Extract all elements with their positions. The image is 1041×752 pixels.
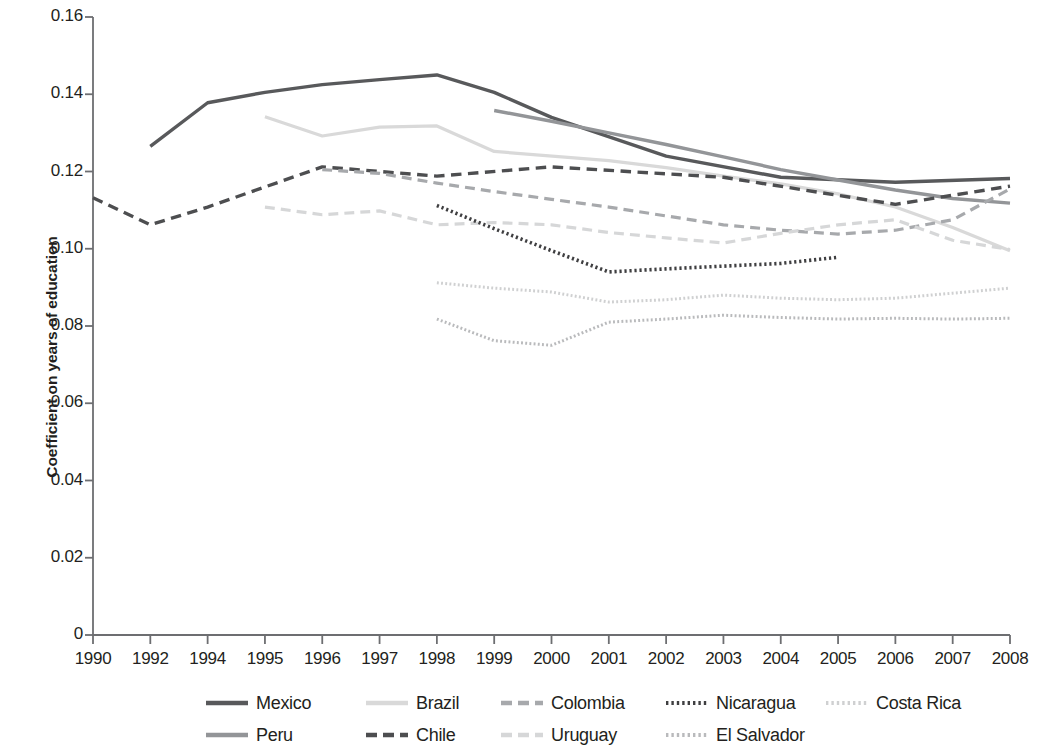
legend-swatch-icon	[825, 696, 869, 710]
legend-row-1: MexicoBrazilColombiaNicaraguaCosta Rica	[0, 688, 1041, 718]
legend-swatch-icon	[365, 696, 409, 710]
legend-swatch-icon	[665, 728, 709, 742]
y-tick-label: 0.06	[23, 392, 83, 412]
series-line-costa-rica	[437, 283, 1010, 302]
legend-item-costa-rica[interactable]: Costa Rica	[825, 688, 961, 718]
series-line-nicaragua	[437, 205, 838, 271]
legend-swatch-icon	[500, 728, 544, 742]
plot-area	[0, 0, 1041, 752]
legend-label: Colombia	[551, 693, 625, 714]
y-tick-label: 0.16	[23, 6, 83, 26]
y-tick-label: 0.08	[23, 315, 83, 335]
y-tick-label: 0.04	[23, 470, 83, 490]
legend-label: Uruguay	[551, 725, 617, 746]
legend-label: Brazil	[416, 693, 459, 714]
legend-label: Mexico	[256, 693, 311, 714]
legend-label: Nicaragua	[716, 693, 795, 714]
legend-item-chile[interactable]: Chile	[365, 720, 456, 750]
legend-item-brazil[interactable]: Brazil	[365, 688, 459, 718]
legend-label: Peru	[256, 725, 293, 746]
y-tick-label: 0	[23, 624, 83, 644]
legend-swatch-icon	[205, 728, 249, 742]
legend-item-peru[interactable]: Peru	[205, 720, 293, 750]
legend-label: Costa Rica	[876, 693, 961, 714]
chart-figure: Coefficient on years of education 0.160.…	[0, 0, 1041, 752]
legend-item-nicaragua[interactable]: Nicaragua	[665, 688, 795, 718]
legend: MexicoBrazilColombiaNicaraguaCosta Rica …	[0, 688, 1041, 752]
legend-label: El Salvador	[716, 725, 805, 746]
series-line-el-salvador	[437, 315, 1010, 345]
axis-lines	[85, 17, 1010, 644]
y-tick-label: 0.10	[23, 238, 83, 258]
legend-swatch-icon	[205, 696, 249, 710]
legend-item-mexico[interactable]: Mexico	[205, 688, 311, 718]
y-tick-label: 0.14	[23, 83, 83, 103]
legend-swatch-icon	[665, 696, 709, 710]
series-line-chile	[93, 167, 1010, 225]
legend-label: Chile	[416, 725, 456, 746]
legend-swatch-icon	[365, 728, 409, 742]
legend-row-2: PeruChileUruguayEl Salvador	[0, 720, 1041, 750]
legend-swatch-icon	[500, 696, 544, 710]
legend-item-uruguay[interactable]: Uruguay	[500, 720, 617, 750]
legend-item-colombia[interactable]: Colombia	[500, 688, 625, 718]
data-series-group	[93, 75, 1010, 345]
legend-item-el-salvador[interactable]: El Salvador	[665, 720, 805, 750]
x-tick-label: 2008	[975, 649, 1041, 669]
y-tick-label: 0.12	[23, 161, 83, 181]
y-tick-label: 0.02	[23, 547, 83, 567]
